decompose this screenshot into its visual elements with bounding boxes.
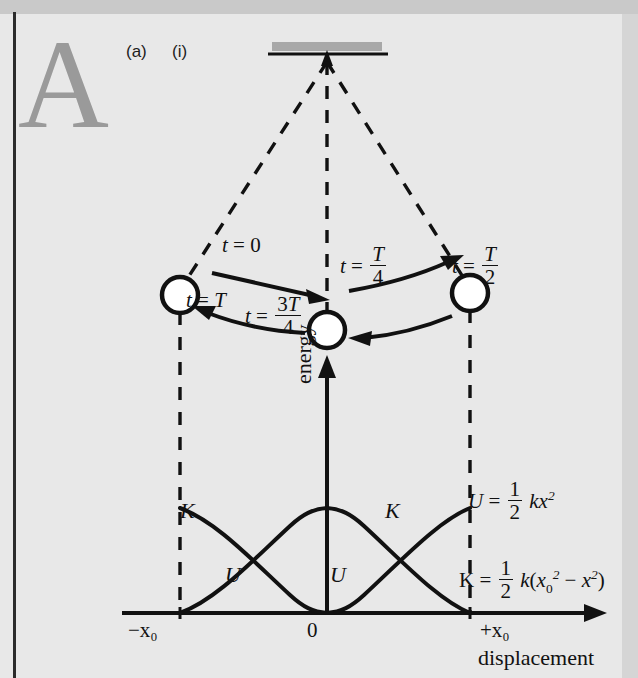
- x-tick-label-pos-x0: +x₀: [480, 618, 510, 643]
- time-label-t0: t = 0: [222, 233, 261, 258]
- time-label-t-T-over-4: t = T4: [340, 243, 388, 289]
- motion-arrowhead-1-icon: [306, 289, 330, 304]
- curve-label-K-right: K: [385, 498, 400, 524]
- x-axis-label-displacement: displacement: [478, 645, 594, 671]
- curve-label-K-left: K: [180, 498, 195, 524]
- x-tick-label-neg-x0: −x₀: [128, 618, 158, 643]
- time-label-t-T: t = T: [186, 288, 226, 313]
- equation-kinetic-energy: K = 12 k(x02 − x2): [459, 557, 605, 603]
- physics-figure-shm: A (a) (i): [0, 0, 638, 678]
- motion-arrow-right-to-center: [364, 316, 452, 338]
- time-label-t-T-over-2: t = T2: [452, 243, 500, 289]
- x-axis-arrowhead-icon: [584, 604, 607, 622]
- equation-potential-energy: U = 12 kx2: [468, 478, 555, 524]
- x-tick-label-zero: 0: [307, 618, 318, 643]
- y-axis-label-energy: energy: [291, 325, 317, 384]
- motion-arrowhead-3-icon: [348, 331, 372, 346]
- support-bar: [272, 42, 382, 51]
- curve-label-U-right: U: [330, 562, 346, 588]
- curve-label-U-left: U: [225, 562, 241, 588]
- y-axis-arrowhead-icon: [318, 355, 336, 378]
